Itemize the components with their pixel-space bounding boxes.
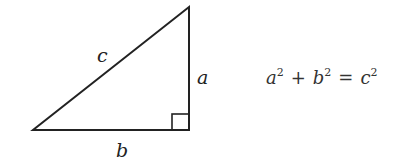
- eq-b: b: [313, 67, 325, 88]
- label-c: c: [97, 44, 108, 66]
- eq-a: a: [266, 67, 277, 88]
- eq-equals: =: [338, 67, 353, 88]
- eq-plus: +: [291, 67, 306, 88]
- right-angle-marker: [172, 114, 189, 130]
- triangle: [33, 7, 189, 130]
- eq-c: c: [360, 67, 370, 88]
- eq-b-exp: 2: [324, 66, 331, 79]
- eq-c-exp: 2: [371, 66, 378, 79]
- pythagorean-equation: a2+b2=c2: [266, 66, 378, 88]
- eq-a-exp: 2: [277, 66, 284, 79]
- label-a: a: [197, 66, 208, 88]
- label-b: b: [116, 139, 128, 161]
